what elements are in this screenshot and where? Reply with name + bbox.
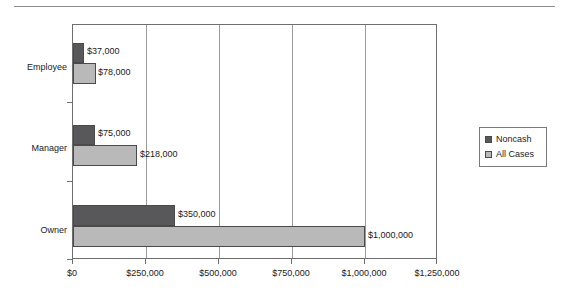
bar-value-employee-allcases: $78,000 [98, 67, 131, 78]
bar-owner-noncash [73, 205, 175, 226]
bar-value-manager-noncash: $75,000 [98, 128, 131, 139]
gridline-750000 [292, 25, 293, 258]
top-divider-rule [14, 6, 555, 7]
x-axis-label-750000: $750,000 [272, 268, 310, 279]
bar-value-owner-noncash: $350,000 [178, 209, 216, 220]
bar-manager-noncash [73, 125, 95, 145]
x-axis-label-1250000: $1,250,000 [414, 268, 459, 279]
gridline-1000000 [365, 25, 366, 258]
x-axis-tick-250000 [145, 259, 146, 264]
y-axis-label-owner: Owner [40, 225, 67, 236]
x-axis-label-250000: $250,000 [126, 268, 164, 279]
x-axis-tick-750000 [291, 259, 292, 264]
legend-swatch-icon-allcases [485, 151, 492, 158]
chart-figure: Employee Manager Owner $37,000 $78,000 $… [0, 0, 569, 306]
legend-label-noncash: Noncash [496, 134, 532, 145]
bar-owner-allcases [73, 226, 365, 247]
x-axis-label-0: $0 [67, 268, 77, 279]
bar-value-owner-allcases: $1,000,000 [368, 230, 413, 241]
bar-manager-allcases [73, 145, 137, 166]
x-axis-tick-0 [72, 259, 73, 264]
legend-item-allcases: All Cases [485, 147, 542, 162]
x-axis-tick-1000000 [364, 259, 365, 264]
y-axis-label-manager: Manager [31, 143, 67, 154]
bar-value-manager-allcases: $218,000 [140, 149, 178, 160]
legend-swatch-icon-noncash [485, 136, 492, 143]
bar-employee-noncash [73, 43, 84, 63]
x-axis-label-1000000: $1,000,000 [341, 268, 386, 279]
plot-area [72, 24, 437, 259]
bar-employee-allcases [73, 63, 96, 84]
chart-legend: Noncash All Cases [479, 127, 547, 167]
x-axis-label-500000: $500,000 [199, 268, 237, 279]
x-axis-tick-1250000 [436, 259, 437, 264]
x-axis-tick-500000 [218, 259, 219, 264]
legend-label-allcases: All Cases [496, 149, 534, 160]
gridline-500000 [219, 25, 220, 258]
bar-value-employee-noncash: $37,000 [87, 46, 120, 57]
legend-item-noncash: Noncash [485, 132, 542, 147]
y-axis-label-employee: Employee [27, 62, 67, 73]
